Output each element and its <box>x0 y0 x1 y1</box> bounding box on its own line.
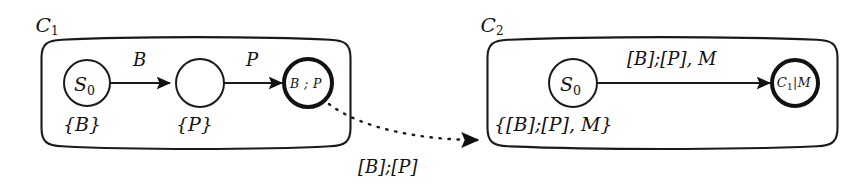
refinement-link-label: [B];[P] <box>358 158 418 176</box>
c1-alphabet-b: {B} <box>63 115 101 134</box>
state-c2-s0-label: S0 <box>560 75 581 97</box>
state-c2-s0-label-sub: 0 <box>573 83 581 98</box>
diagram-vector-layer <box>0 0 865 194</box>
state-c2-s1-label: C1|M <box>777 77 811 92</box>
state-c2-s1-label-suffix: |M <box>793 75 811 90</box>
c1-alphabet-p: {P} <box>176 115 213 134</box>
c1-transition-b-label: B <box>133 51 146 69</box>
c1-transition-p-label: P <box>246 51 258 69</box>
c2-alphabet: {[B];[P], M} <box>494 115 613 134</box>
state-c1-s0-label-base: S <box>74 73 87 95</box>
container-c1-label-base: C <box>36 16 51 35</box>
state-c1-s2-label: B ; P <box>290 78 322 91</box>
container-c2-label-base: C <box>481 16 496 35</box>
container-c1-label-sub: 1 <box>51 24 59 38</box>
container-c2-label-sub: 2 <box>496 24 504 38</box>
state-c1-s1[interactable] <box>176 59 224 107</box>
state-c1-s0-label-sub: 0 <box>87 83 95 98</box>
container-c1-label: C1 <box>36 16 59 37</box>
container-c2-label: C2 <box>481 16 504 37</box>
diagram-canvas: C1 S0 B ; P B P {B} {P} [B];[P] C2 S0 C1… <box>0 0 865 194</box>
state-c1-s0-label: S0 <box>74 75 95 97</box>
c2-transition-label: [B];[P], M <box>627 50 716 68</box>
state-c2-s1-label-base: C <box>777 77 788 90</box>
state-c2-s0-label-base: S <box>560 73 573 95</box>
